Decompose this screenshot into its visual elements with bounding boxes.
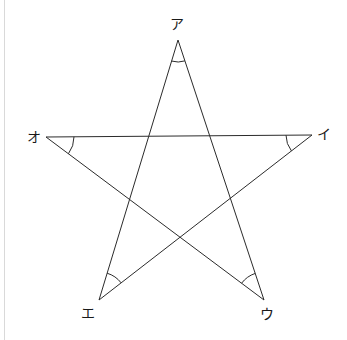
edge-o-i: [46, 135, 312, 137]
angle-arc-o: [68, 137, 74, 154]
angle-arc-i: [286, 135, 291, 151]
vertex-label-o: オ: [27, 130, 41, 144]
angle-arcs-group: [68, 61, 291, 283]
edge-u-o: [46, 137, 264, 300]
angle-arc-e: [107, 273, 121, 283]
vertex-label-i: イ: [317, 127, 331, 141]
angle-arc-u: [242, 273, 256, 283]
vertex-label-e: エ: [81, 306, 95, 320]
edge-i-e: [99, 135, 312, 300]
vertex-label-a: ア: [170, 17, 184, 31]
edge-a-u: [178, 40, 264, 300]
angle-arc-a: [172, 61, 185, 62]
star-pentagram-svg: [0, 0, 347, 340]
figure-canvas: アイウエオ: [0, 0, 347, 340]
vertex-label-u: ウ: [260, 307, 274, 321]
star-edges-group: [46, 40, 312, 300]
edge-e-a: [99, 40, 178, 300]
